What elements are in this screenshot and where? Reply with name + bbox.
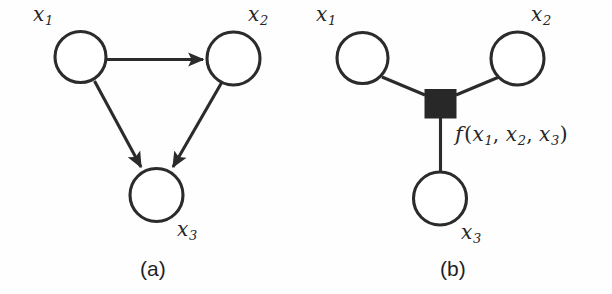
- panel-a-graph: [55, 32, 260, 222]
- label-x2-var-b: x: [531, 2, 542, 26]
- label-x1-sub-a: 1: [45, 13, 53, 28]
- edge-factor-to-x2: [456, 77, 499, 95]
- factor-arg3-var: x: [539, 122, 550, 146]
- factor-arg2-var: x: [506, 122, 517, 146]
- edge-factor-to-x1: [382, 77, 425, 95]
- factor-arg3-sub: 3: [551, 133, 559, 148]
- edge-x2-to-x3: [173, 82, 222, 167]
- label-x2-panel-b: x2: [531, 4, 551, 27]
- label-x3-sub-a: 3: [189, 228, 197, 243]
- factor-close-paren: ): [560, 122, 568, 146]
- factor-arg1-var: x: [472, 122, 483, 146]
- edge-x1-to-x3: [95, 81, 142, 167]
- factor-node-f[interactable]: [425, 90, 456, 119]
- node-x1-panel-b[interactable]: [337, 33, 388, 84]
- factor-arg1-sub: 1: [484, 133, 492, 148]
- label-x1-var-b: x: [316, 2, 327, 26]
- label-x2-sub-a: 2: [260, 13, 268, 28]
- label-x1-panel-a: x1: [33, 4, 53, 27]
- node-x2-panel-b[interactable]: [491, 32, 544, 85]
- label-x2-panel-a: x2: [248, 4, 268, 27]
- factor-arg2-sub: 2: [518, 133, 526, 148]
- label-x3-var-a: x: [177, 217, 188, 241]
- label-x2-var-a: x: [248, 2, 259, 26]
- label-x3-sub-b: 3: [473, 231, 481, 246]
- factor-comma-1: ,: [493, 122, 500, 146]
- factor-graph-figure: x1 x2 x3 (a) x1 x2 x3 f(x1, x2, x3) (b): [0, 0, 612, 294]
- factor-fn-name: f: [455, 122, 463, 146]
- node-x1-panel-a[interactable]: [55, 32, 106, 83]
- label-x1-panel-b: x1: [316, 4, 336, 27]
- label-x1-sub-b: 1: [328, 13, 336, 28]
- node-x3-panel-b[interactable]: [414, 172, 467, 225]
- node-x2-panel-a[interactable]: [207, 32, 260, 85]
- label-x1-var-a: x: [33, 2, 44, 26]
- factor-comma-2: ,: [526, 122, 533, 146]
- label-x3-panel-b: x3: [461, 222, 481, 245]
- label-x2-sub-b: 2: [543, 13, 551, 28]
- caption-panel-a: (a): [140, 258, 166, 279]
- label-factor-function: f(x1, x2, x3): [455, 124, 568, 147]
- node-x3-panel-a[interactable]: [130, 169, 183, 222]
- label-x3-panel-a: x3: [177, 219, 197, 242]
- label-x3-var-b: x: [461, 220, 472, 244]
- caption-panel-b: (b): [440, 258, 466, 279]
